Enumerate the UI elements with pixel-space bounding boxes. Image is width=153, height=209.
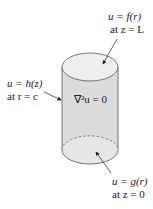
bottom-label-line2: at z = 0 (112, 188, 145, 200)
side-label-line2: at r = c (7, 90, 38, 102)
laplace-equation: ∇²u = 0 (73, 93, 108, 105)
side-label-line1: u = h(z) (7, 77, 43, 90)
cylinder-diagram: u = f(r) at z = L u = h(z) at r = c ∇²u … (0, 0, 153, 209)
bottom-label-line1: u = g(r) (112, 175, 148, 188)
top-label-line1: u = f(r) (108, 10, 141, 23)
top-label-line2: at z = L (110, 23, 144, 35)
side-arrow (44, 92, 61, 100)
top-ellipse (62, 53, 118, 81)
